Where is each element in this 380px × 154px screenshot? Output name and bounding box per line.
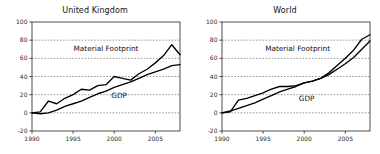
panel-world: World -200204060801001990199520002005Mat… <box>190 0 380 154</box>
ytick-label-100: 100 <box>206 18 218 25</box>
series-label-material-footprint: Material Footprint <box>265 44 330 53</box>
xtick-label-1990: 1990 <box>24 135 39 142</box>
xtick-label-2005: 2005 <box>148 135 163 142</box>
ytick-label--20: -20 <box>208 127 218 134</box>
ytick-label-20: 20 <box>20 91 28 98</box>
series-label-gdp: GDP <box>299 94 315 103</box>
xtick-label-1995: 1995 <box>65 135 80 142</box>
ytick-label-80: 80 <box>20 36 28 43</box>
xtick-label-1990: 1990 <box>214 135 229 142</box>
ytick-label-40: 40 <box>210 73 218 80</box>
panel-united-kingdom: United Kingdom -200204060801001990199520… <box>0 0 190 154</box>
ytick-label--20: -20 <box>18 127 28 134</box>
xtick-label-2000: 2000 <box>107 135 122 142</box>
xtick-label-2005: 2005 <box>338 135 353 142</box>
series-label-gdp: GDP <box>111 91 127 100</box>
ytick-label-100: 100 <box>16 18 28 25</box>
plot-world: -200204060801001990199520002005Material … <box>190 0 380 154</box>
plot-united-kingdom: -200204060801001990199520002005Material … <box>0 0 190 154</box>
series-label-material-footprint: Material Footprint <box>74 44 139 53</box>
xtick-label-2000: 2000 <box>297 135 312 142</box>
xtick-label-1995: 1995 <box>255 135 270 142</box>
ytick-label-60: 60 <box>20 54 28 61</box>
series-line-material-footprint <box>32 45 180 113</box>
figure-two-panel-line-charts: United Kingdom -200204060801001990199520… <box>0 0 380 154</box>
ytick-label-80: 80 <box>210 36 218 43</box>
series-line-gdp <box>32 65 180 114</box>
ytick-label-40: 40 <box>20 73 28 80</box>
ytick-label-0: 0 <box>24 109 28 116</box>
ytick-label-60: 60 <box>210 54 218 61</box>
ytick-label-20: 20 <box>210 91 218 98</box>
ytick-label-0: 0 <box>214 109 218 116</box>
